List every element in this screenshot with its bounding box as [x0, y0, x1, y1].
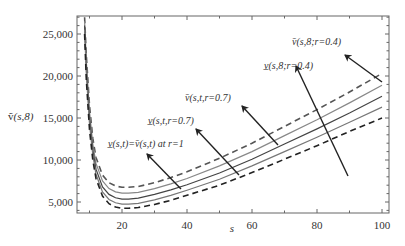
annotation-label: v̄(s,8;r=0.4) — [292, 36, 342, 48]
y-axis-title-args: (s,8) — [14, 110, 34, 123]
plot-frame — [77, 16, 389, 213]
annotation-label: v̲(s,t,r=0.7) — [147, 115, 195, 127]
y-tick-labels: 5,00010,00015,00020,00025,000 — [43, 28, 74, 208]
y-tick-label: 15,000 — [43, 112, 74, 124]
x-tick-label: 100 — [374, 219, 391, 231]
x-axis-title: s — [230, 222, 234, 234]
series-line — [85, 30, 382, 204]
annotation-label: v̲(s,8;r=0.4) — [263, 60, 314, 72]
annotation-arrow — [345, 55, 382, 82]
y-axis-title: ṽ(s,8) — [8, 110, 34, 123]
x-tick-labels: 20406080100 — [117, 219, 391, 231]
series-line — [85, 34, 382, 208]
x-tick-label: 20 — [117, 219, 129, 231]
chart: 20406080100 5,00010,00015,00020,00025,00… — [0, 0, 405, 246]
annotation-label: v̄(s,t,r=0.7) — [185, 92, 232, 104]
y-tick-label: 5,000 — [48, 196, 73, 208]
x-tick-label: 80 — [312, 219, 324, 231]
x-tick-label: 60 — [247, 219, 259, 231]
axis-ticks — [77, 16, 389, 213]
x-tick-label: 40 — [182, 219, 194, 231]
annotation-arrow — [296, 66, 348, 176]
annotation-label: v̲(s,t)=v̄(s,t) at r=1 — [107, 138, 184, 150]
annotations: v̄(s,8;r=0.4)v̲(s,8;r=0.4)v̄(s,t,r=0.7)v… — [107, 36, 382, 189]
y-tick-label: 25,000 — [43, 28, 74, 40]
y-tick-label: 10,000 — [43, 154, 74, 166]
y-tick-label: 20,000 — [43, 70, 74, 82]
